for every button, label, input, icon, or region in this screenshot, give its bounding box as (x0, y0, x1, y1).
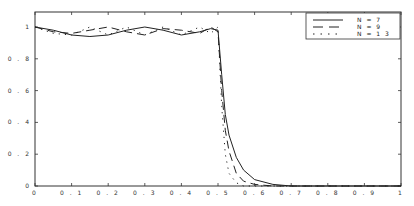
legend-label-n13: N = 1 3 (357, 30, 390, 37)
x-tick-label: 1 (398, 189, 404, 196)
y-tick-label: 0 . 6 (8, 87, 31, 94)
line-chart: 00 . 10 . 20 . 30 . 40 . 50 . 60 . 70 . … (0, 0, 414, 206)
series-lines (35, 27, 401, 186)
x-tick-label: 0 (32, 189, 38, 196)
series-line-solid (35, 27, 401, 186)
y-tick-label: 0 (25, 182, 31, 189)
y-tick-label: 0 . 2 (8, 150, 31, 157)
x-tick-label: 0 . 7 (280, 189, 303, 196)
series-line-dashed (35, 27, 401, 186)
y-axis-ticks: 00 . 20 . 40 . 60 . 81 (8, 23, 401, 189)
x-tick-label: 0 . 3 (133, 189, 156, 196)
x-tick-label: 0 . 6 (243, 189, 266, 196)
x-tick-label: 0 . 1 (60, 189, 83, 196)
legend-label-n7: N = 7 (357, 16, 382, 23)
x-tick-label: 0 . 9 (353, 189, 376, 196)
legend: N = 7 N = 9 N = 1 3 (306, 13, 400, 39)
legend-label-n9: N = 9 (357, 23, 382, 30)
x-tick-label: 0 . 8 (316, 189, 339, 196)
y-tick-label: 0 . 4 (8, 118, 31, 125)
x-tick-label: 0 . 2 (97, 189, 120, 196)
y-tick-label: 1 (25, 23, 31, 30)
series-line-dotted (35, 27, 401, 186)
x-tick-label: 0 . 4 (170, 189, 193, 196)
y-tick-label: 0 . 8 (8, 55, 31, 62)
x-tick-label: 0 . 5 (206, 189, 229, 196)
